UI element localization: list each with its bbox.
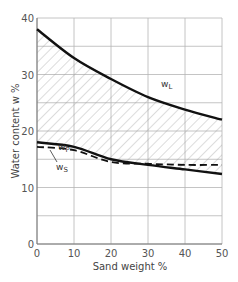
svg-text:0: 0 — [34, 248, 40, 259]
y-axis-label: Water content w % — [10, 83, 21, 178]
label-wL: wL — [161, 79, 172, 91]
svg-text:30: 30 — [21, 70, 34, 81]
svg-text:20: 20 — [105, 248, 118, 259]
svg-text:50: 50 — [216, 248, 229, 259]
chart: 01020304050010203040 Sand weight % Water… — [0, 0, 238, 282]
label-wS: wS — [56, 162, 68, 174]
svg-text:10: 10 — [21, 183, 34, 194]
svg-text:30: 30 — [142, 248, 155, 259]
label-wS-leader — [50, 150, 57, 162]
svg-text:0: 0 — [28, 239, 34, 250]
svg-text:40: 40 — [179, 248, 192, 259]
svg-text:10: 10 — [68, 248, 81, 259]
svg-text:40: 40 — [21, 13, 34, 24]
x-axis-label: Sand weight % — [93, 261, 168, 272]
svg-text:20: 20 — [21, 126, 34, 137]
